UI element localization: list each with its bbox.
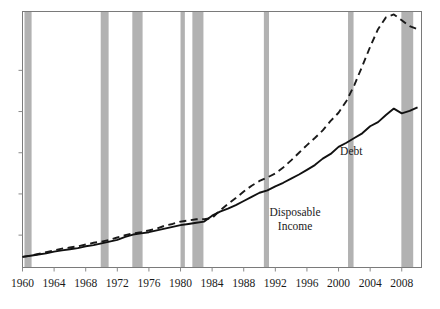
x-axis-tick-label: 1968 <box>74 277 97 289</box>
chart-background <box>0 0 440 309</box>
series-label-disposable-income-line2: Income <box>278 220 312 232</box>
x-axis-tick-label: 1984 <box>201 277 224 289</box>
x-axis-tick-label: 1964 <box>43 277 66 289</box>
x-axis-tick-label: 1992 <box>264 277 287 289</box>
x-axis-tick-label: 2000 <box>327 277 350 289</box>
line-chart: 1960196419681972197619801984198819921996… <box>0 0 440 309</box>
series-label-disposable-income-line1: Disposable <box>270 206 321 219</box>
x-axis-tick-label: 2004 <box>359 277 382 289</box>
x-axis-tick-label: 1996 <box>295 277 318 289</box>
x-axis-tick-label: 1988 <box>232 277 255 289</box>
recession-band <box>181 12 185 268</box>
x-axis-tick-label: 1976 <box>137 277 160 289</box>
x-axis-tick-label: 1980 <box>169 277 192 289</box>
recession-band <box>24 12 31 268</box>
recession-band <box>101 12 109 268</box>
recession-band <box>401 12 413 268</box>
recession-band <box>192 12 203 268</box>
recession-band <box>264 12 269 268</box>
series-label-debt: Debt <box>340 145 363 157</box>
x-axis-tick-label: 1960 <box>11 277 34 289</box>
chart-container: 1960196419681972197619801984198819921996… <box>0 0 440 309</box>
x-axis-tick-label: 2008 <box>390 277 413 289</box>
x-axis-tick-label: 1972 <box>106 277 129 289</box>
recession-band <box>132 12 142 268</box>
